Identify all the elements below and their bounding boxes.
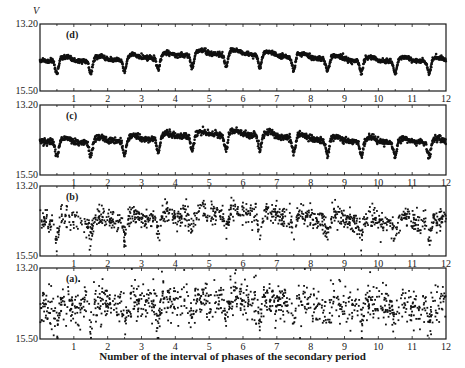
y-tick-bottom: 15.50 [16,169,39,180]
light-curve-figure: V12345678910111213.2015.50(d)12345678910… [0,0,465,368]
x-tick-label: 9 [342,93,347,104]
x-tick-label: 7 [274,93,279,104]
plot-canvas: V12345678910111213.2015.50(d)12345678910… [0,0,465,368]
y-tick-top: 13.20 [16,262,39,273]
x-tick-label: 11 [407,258,417,269]
x-tick-label: 3 [139,93,144,104]
x-tick-label: 10 [373,258,383,269]
panel-frame [40,268,446,339]
x-tick-label: 11 [407,93,417,104]
x-tick-label: 2 [105,258,110,269]
y-tick-top: 13.20 [16,99,39,110]
x-tick-label: 8 [308,258,313,269]
x-tick-label: 5 [207,258,212,269]
panel-a: 12345678910111213.2015.50(a) [16,262,452,352]
x-tick-label: 4 [173,93,178,104]
x-tick-label: 9 [342,258,347,269]
y-axis-name: V [33,5,41,16]
y-tick-top: 13.20 [16,18,39,29]
x-tick-label: 10 [373,93,383,104]
panel-label: (b) [66,191,78,203]
x-tick-label: 2 [105,93,110,104]
y-tick-bottom: 15.50 [16,250,39,261]
x-tick-label: 4 [173,258,178,269]
x-tick-label: 6 [241,258,246,269]
panel-d: 12345678910111213.2015.50(d) [16,18,452,104]
x-tick-label: 1 [71,258,76,269]
panel-label: (c) [66,110,77,122]
y-tick-bottom: 15.50 [16,333,39,344]
x-tick-label: 3 [139,258,144,269]
panel-b: 12345678910111213.2015.50(b) [16,180,452,269]
x-tick-label: 6 [241,93,246,104]
x-tick-label: 12 [441,93,451,104]
panel-c: 12345678910111213.2015.50(c) [16,99,452,188]
y-tick-top: 13.20 [16,180,39,191]
x-axis-label: Number of the interval of phases of the … [0,350,465,362]
y-tick-bottom: 15.50 [16,85,39,96]
x-tick-label: 12 [441,258,451,269]
x-tick-label: 1 [71,93,76,104]
x-tick-label: 8 [308,93,313,104]
panel-label: (d) [66,29,78,41]
x-tick-label: 7 [274,258,279,269]
panel-label: (a) [66,273,78,285]
x-tick-label: 5 [207,93,212,104]
